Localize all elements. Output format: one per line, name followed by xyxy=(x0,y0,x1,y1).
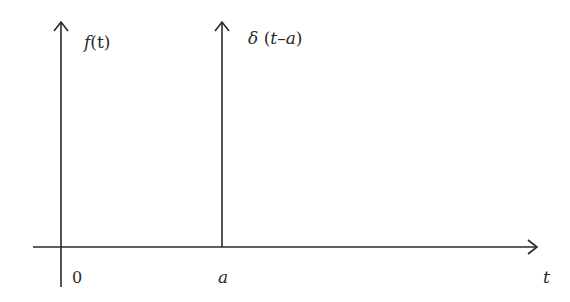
impulse-label: δ (t–a) xyxy=(248,28,302,48)
impulse-position-label: a xyxy=(218,267,228,287)
y-axis-label: f(t) xyxy=(82,32,110,52)
origin-label: 0 xyxy=(72,268,82,287)
impulse-diagram: f(t) δ (t–a) 0 a t xyxy=(0,0,570,302)
x-axis-label: t xyxy=(543,267,550,287)
